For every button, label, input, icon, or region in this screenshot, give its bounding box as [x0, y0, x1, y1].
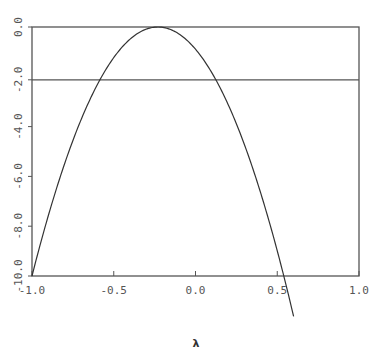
- y-tick-label: -6.0: [12, 163, 25, 190]
- x-tick-label: 1.0: [349, 284, 369, 297]
- x-axis-title: λ: [193, 337, 200, 350]
- y-tick-label: -4.0: [12, 113, 25, 140]
- chart: -1.0-0.50.00.51.0 0.0-2.0-4.0-6.0-8.0-10…: [0, 0, 383, 359]
- y-tick-label: -10.0: [12, 259, 25, 292]
- y-tick-label: 0.0: [12, 17, 25, 37]
- x-tick-label: -0.5: [101, 284, 128, 297]
- x-tick-label: 0.0: [186, 284, 206, 297]
- y-tick-label: -8.0: [12, 213, 25, 240]
- x-tick-label: 0.5: [267, 284, 287, 297]
- plot-frame: [32, 27, 359, 276]
- x-axis-ticks: -1.0-0.50.00.51.0: [19, 271, 369, 297]
- data-series: [32, 27, 294, 316]
- y-tick-label: -2.0: [12, 67, 25, 94]
- plot-border: [32, 27, 359, 276]
- y-axis-ticks: 0.0-2.0-4.0-6.0-8.0-10.0: [12, 17, 32, 293]
- curve-line: [32, 27, 294, 316]
